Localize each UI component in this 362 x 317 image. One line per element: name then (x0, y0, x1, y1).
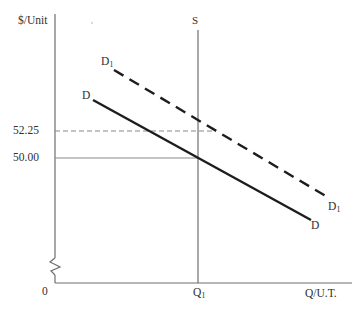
x-tick-label-q1: DQ1 (193, 287, 205, 299)
demand1-curve-label-right: D1 (328, 201, 340, 213)
scan-artifact-speck (91, 22, 93, 24)
chart-canvas (0, 0, 362, 317)
supply-curve-label: S (192, 15, 198, 26)
y-axis-title: $/Unit (18, 15, 47, 27)
demand1-curve (114, 70, 329, 198)
y-tick-label-52-25: 52.25 (13, 125, 39, 137)
y-tick-label-50-00: 50.00 (13, 152, 39, 164)
demand-curve (93, 100, 311, 220)
demand-curve-label-left: D (82, 90, 90, 102)
supply-demand-chart: $/Unit Q/U.T. 0 52.25 50.00 DQ1 S D D D1… (0, 0, 362, 317)
demand1-right-subscript: 1 (336, 205, 340, 214)
demand1-left-subscript: 1 (109, 60, 113, 69)
y-axis-scale-break-icon (50, 258, 60, 275)
x-axis-title: Q/U.T. (305, 288, 337, 300)
x-tick-label-q1-subscript: 1 (201, 291, 205, 300)
demand-curve-label-right: D (311, 220, 319, 232)
origin-label: 0 (42, 286, 48, 298)
demand1-curve-label-left: D1 (101, 56, 113, 68)
